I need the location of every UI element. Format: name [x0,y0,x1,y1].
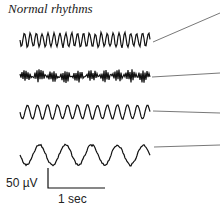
trace-1 [20,32,150,48]
scale-bar [48,168,105,188]
voltage-scale-label: 50 µV [6,176,38,190]
time-scale-label: 1 sec [58,192,87,206]
trace-3 [20,105,150,119]
pointer-lines [152,13,220,147]
trace-2 [20,69,150,83]
trace-4 [20,144,150,166]
